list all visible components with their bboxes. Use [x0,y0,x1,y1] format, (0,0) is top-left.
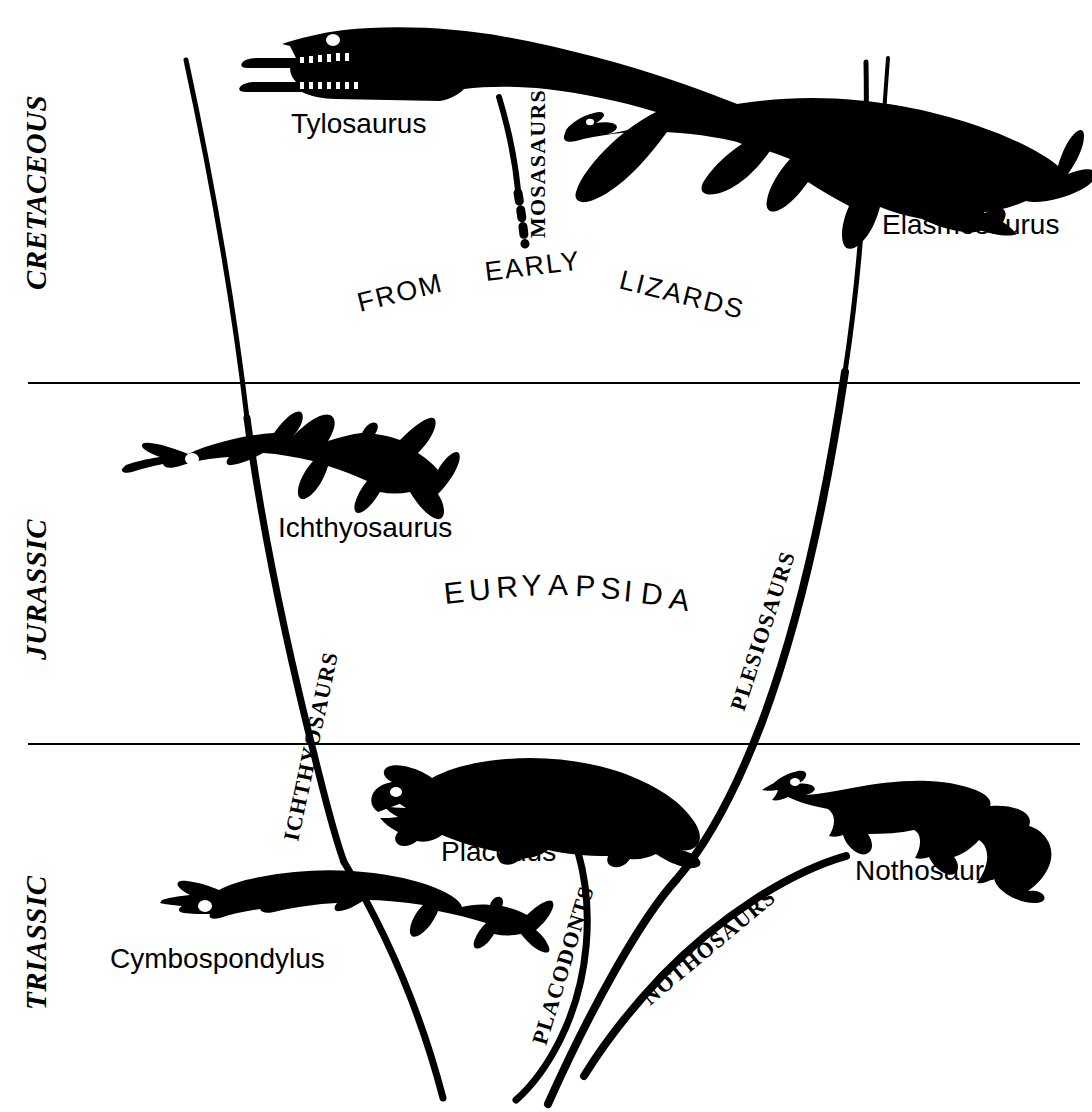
phrase-label-lizards: LIZARDS [617,265,748,325]
evolution-diagram: CRETACEOUS JURASSIC TRIASSIC Tylosaurus … [0,0,1092,1112]
clade-letter-2: R [495,569,522,604]
era-label-cretaceous: CRETACEOUS [20,95,52,290]
branch-line-mosasaurs-solid [499,97,518,190]
clade-letter-4: A [548,568,571,601]
diagram-canvas: CRETACEOUS JURASSIC TRIASSIC Tylosaurus … [0,0,1092,1112]
placodus-eye [390,787,402,797]
clade-label-euryapsida: E U R Y A P S I D A [442,568,695,618]
era-label-jurassic: JURASSIC [20,519,52,661]
branch-line-ichthyosaurs [186,60,247,418]
cymbospondylus-eye [198,900,212,912]
clade-letter-3: Y [521,568,545,602]
clade-letter-9: A [667,581,695,617]
taxon-label-ichthyosaurs: ICHTHYOSAURS [278,649,343,843]
genus-label-ichthyosaurus: Ichthyosaurus [278,512,452,543]
genus-label-nothosaurus: Nothosaurus [855,855,1014,886]
branch-line-nothosaurs [584,856,846,1076]
clade-letter-7: I [622,574,636,608]
clade-letter-6: S [600,571,625,606]
branch-line-mosasaurs-dashed [518,193,525,244]
genus-label-elasmosaurus: Elasmosaurus [882,209,1059,240]
clade-letter-0: E [442,575,468,610]
elasmosaurus-eye [586,119,594,125]
era-label-triassic: TRIASSIC [20,875,52,1010]
phrase-label-from: FROM [354,268,446,318]
genus-label-tylosaurus: Tylosaurus [291,108,426,139]
ichthyosaurus-eye [185,453,199,465]
period-dividers [28,383,1080,744]
genus-label-placodus: Placodus [441,836,556,867]
phrase-label-early: EARLY [483,245,582,287]
nothosaurus-eye [790,778,800,786]
tylosaurus-eye [326,34,340,46]
genus-label-cymbospondylus: Cymbospondylus [110,943,325,974]
ichthyosaurus-silhouette [122,411,460,519]
cymbospondylus-silhouette [160,870,553,952]
clade-letter-1: U [468,572,495,607]
clade-letter-8: D [639,576,668,612]
origin-phrase: FROM EARLY LIZARDS [354,245,748,324]
taxon-label-mosasaurs: MOSASAURS [525,89,550,238]
clade-letter-5: P [575,569,599,603]
era-labels: CRETACEOUS JURASSIC TRIASSIC [20,95,52,1010]
